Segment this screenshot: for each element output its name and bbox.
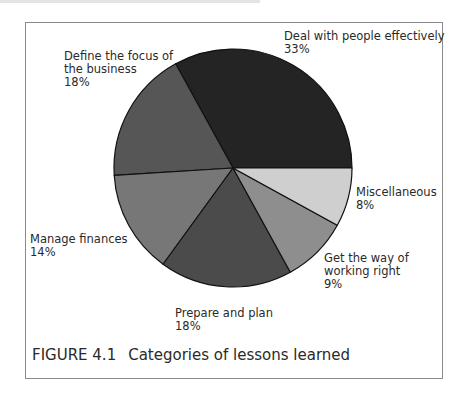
figure-number: FIGURE 4.1 — [32, 346, 116, 364]
label-manage-name: Manage finances — [30, 232, 128, 246]
label-deal-name: Deal with people effectively — [284, 29, 445, 43]
label-prepare-name: Prepare and plan — [175, 306, 273, 320]
label-misc-name: Miscellaneous — [356, 185, 437, 199]
label-manage: Manage finances 14% — [30, 233, 128, 259]
label-deal: Deal with people effectively 33% — [284, 30, 445, 56]
label-getway-name-2: working right — [324, 264, 400, 278]
label-define-pct: 18% — [64, 75, 90, 89]
label-define: Define the focus of the business 18% — [64, 50, 173, 89]
label-define-name-2: the business — [64, 62, 137, 76]
label-getway-name-1: Get the way of — [324, 251, 409, 265]
label-deal-pct: 33% — [284, 42, 310, 56]
label-misc-pct: 8% — [356, 198, 374, 212]
label-manage-pct: 14% — [30, 245, 56, 259]
label-prepare: Prepare and plan 18% — [175, 307, 273, 333]
label-misc: Miscellaneous 8% — [356, 186, 437, 212]
figure-caption: FIGURE 4.1Categories of lessons learned — [32, 346, 350, 364]
label-prepare-pct: 18% — [175, 319, 201, 333]
label-getway: Get the way of working right 9% — [324, 252, 409, 291]
label-define-name-1: Define the focus of — [64, 49, 173, 63]
figure-caption-text: Categories of lessons learned — [128, 346, 350, 364]
label-getway-pct: 9% — [324, 277, 342, 291]
